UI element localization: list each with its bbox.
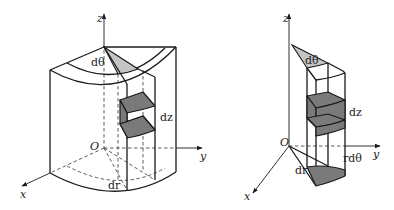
- right-bottom-radial-right: [289, 146, 328, 166]
- right-rdtheta-label: rdθ: [343, 152, 362, 165]
- left-z-label: z: [96, 12, 103, 25]
- left-dr-label: dr: [108, 179, 121, 192]
- right-origin-label: O: [280, 136, 289, 149]
- right-dr-label: dr: [295, 164, 308, 177]
- right-x-axis: [253, 146, 289, 193]
- right-figure: y z y x O dθ dz dr rdθ: [199, 12, 380, 203]
- right-top-front-edge: [307, 68, 345, 80]
- left-dz-label: dz: [160, 111, 173, 124]
- wedge-radial-right: [138, 69, 155, 77]
- right-dz-label: dz: [349, 106, 362, 119]
- left-x-axis: [22, 173, 50, 186]
- left-figure: z x O dθ dz dr: [20, 12, 202, 201]
- right-bottom-face: [307, 166, 345, 186]
- left-dtheta-label: dθ: [91, 56, 105, 69]
- right-y-label: y: [372, 148, 380, 161]
- bottom-radial-right: [104, 148, 155, 180]
- top-dtheta-wedge: [104, 47, 138, 74]
- diagram-canvas: z x O dθ dz dr y: [0, 0, 394, 210]
- right-top-corner: [343, 71, 345, 73]
- right-z-label: z: [282, 12, 289, 25]
- right-dtheta-label: dθ: [305, 54, 319, 67]
- right-top-edge-right: [328, 63, 343, 71]
- right-x-label: x: [244, 190, 251, 203]
- left-x-label: x: [20, 188, 27, 201]
- left-y-label: y: [199, 150, 207, 163]
- left-origin-label: O: [90, 140, 99, 153]
